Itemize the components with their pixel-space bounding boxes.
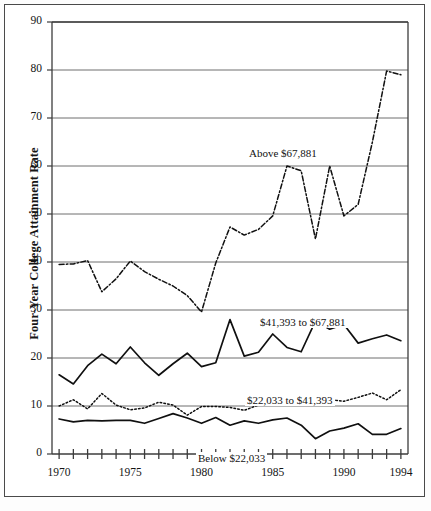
series-line-2	[59, 390, 401, 415]
x-tick-label-1970: 1970	[36, 466, 82, 478]
y-tick-label-70: 70	[16, 110, 42, 122]
line-chart-plot	[0, 0, 431, 511]
plot-frame	[52, 22, 408, 454]
series-annotation-3: Below $22,033	[196, 452, 267, 464]
data-series-group	[59, 71, 401, 439]
gridlines-group	[52, 22, 408, 406]
series-annotation-0: Above $67,881	[247, 147, 319, 159]
x-tick-label-1994: 1994	[378, 466, 424, 478]
series-annotation-2: $22,033 to $41,393	[245, 394, 335, 406]
series-line-1	[59, 320, 401, 384]
y-tick-label-0: 0	[16, 446, 42, 458]
series-line-0	[59, 71, 401, 312]
x-tick-label-1975: 1975	[107, 466, 153, 478]
y-tick-marks	[47, 22, 52, 454]
figure-container: Four-Year College Attainment Rate 908070…	[0, 0, 431, 511]
y-tick-label-60: 60	[16, 158, 42, 170]
y-tick-label-80: 80	[16, 62, 42, 74]
x-tick-label-1985: 1985	[250, 466, 296, 478]
y-tick-label-20: 20	[16, 350, 42, 362]
y-tick-label-50: 50	[16, 206, 42, 218]
y-tick-label-40: 40	[16, 254, 42, 266]
x-tick-label-1980: 1980	[179, 466, 225, 478]
y-tick-label-10: 10	[16, 398, 42, 410]
x-tick-label-1990: 1990	[321, 466, 367, 478]
series-line-3	[59, 414, 401, 439]
y-tick-label-30: 30	[16, 302, 42, 314]
series-annotation-1: $41,393 to $67,881	[258, 316, 348, 328]
y-tick-label-90: 90	[16, 14, 42, 26]
